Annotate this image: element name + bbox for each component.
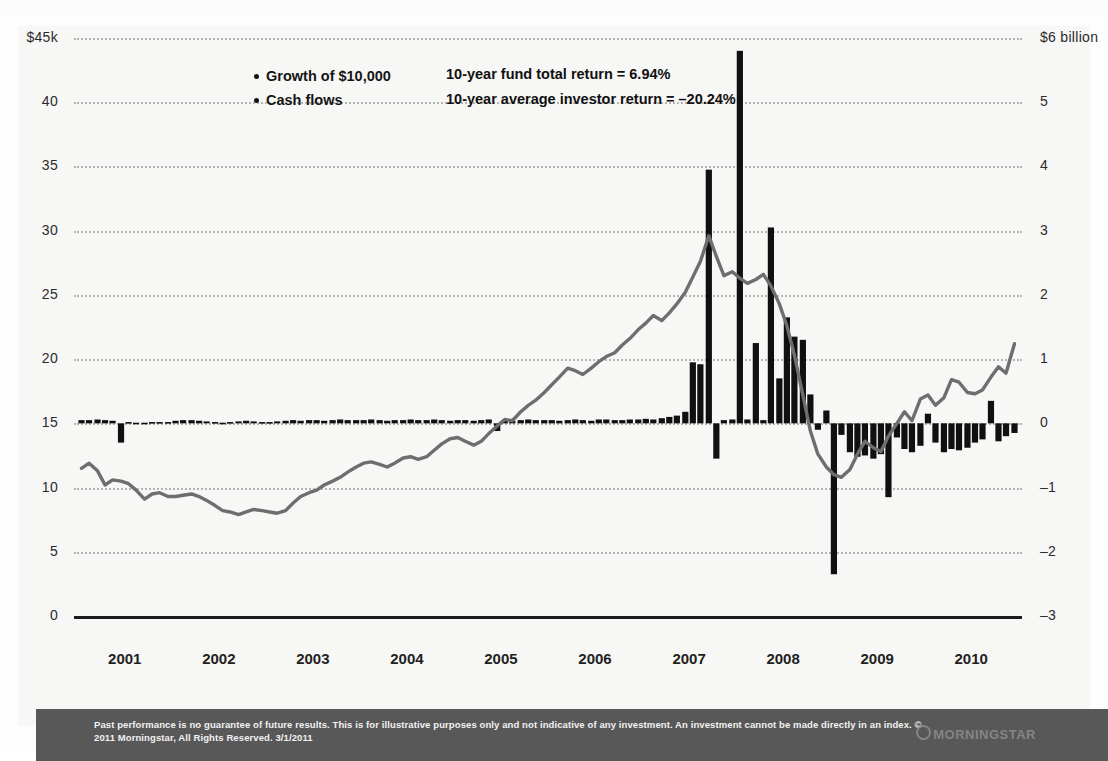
cash-flow-bar [188,420,194,423]
cash-flow-bar [533,420,539,423]
cash-flow-bar [431,419,437,423]
legend-item-cashflows: Cash flows [254,92,391,108]
x-axis-tick: 2007 [672,650,705,667]
cash-flow-bar [518,420,524,423]
y-axis-left-tick: 5 [50,543,58,559]
legend-label-cashflows: Cash flows [266,92,343,108]
cash-flow-bar [172,421,178,424]
cash-flow-bar [259,422,265,424]
cash-flow-bar [86,420,92,423]
cash-flow-bar [744,419,750,423]
x-axis-tick: 2006 [578,650,611,667]
cash-flow-bar [941,423,947,452]
cash-flow-bar [337,419,343,423]
cash-flow-bar [180,420,186,423]
disclaimer-text: Past performance is no guarantee of futu… [94,718,924,744]
cash-flow-bar [979,423,985,439]
cash-flow-bar [243,421,249,424]
cash-flow-bar [713,423,719,458]
cash-flow-bar [956,423,962,450]
cash-flow-bar [219,423,225,425]
cash-flow-bar [565,420,571,423]
y-axis-left-tick: 15 [42,414,58,430]
legend-label-growth: Growth of $10,000 [266,68,391,84]
cash-flow-bar [815,423,821,429]
x-axis-tick: 2001 [108,650,141,667]
cash-flow-bar [729,419,735,423]
cash-flow-bar [917,423,923,445]
cash-flow-bar [368,419,374,423]
cash-flow-bar [988,401,994,423]
cash-flow-bar [768,227,774,423]
cash-flow-bar [690,362,696,423]
cash-flow-bar [462,420,468,423]
cash-flow-bar [870,423,876,458]
y-axis-left-tick: 25 [42,286,58,302]
plot-area: $45k4035302520151050$6 billion543210–1–2… [74,38,1022,616]
cash-flow-bar [925,414,931,424]
x-axis-tick: 2004 [390,650,423,667]
y-axis-right-tick: –3 [1040,607,1056,623]
bullet-icon [254,98,259,103]
y-axis-left-tick: 10 [42,479,58,495]
cash-flow-bar [314,420,320,423]
cash-flow-bar [862,423,868,455]
cash-flow-bar [486,419,492,423]
y-axis-right-tick: 3 [1040,222,1048,238]
scan-artifact-strip [0,0,1108,10]
cash-flow-bar [290,420,296,423]
cash-flow-bar [471,421,477,424]
cash-flow-bar [972,423,978,442]
y-axis-right-tick: 1 [1040,350,1048,366]
cash-flow-bar [118,423,124,442]
cash-flow-bar [580,420,586,423]
y-axis-left-tick: $45k [26,29,58,45]
cash-flow-bar [674,416,680,424]
bullet-icon [254,74,259,79]
cash-flow-bar [831,423,837,574]
y-axis-right-tick: –1 [1040,479,1056,495]
cash-flow-bar [204,421,210,423]
cash-flow-bar [1011,423,1017,433]
cash-flow-bar [650,419,656,423]
cash-flow-bar [612,420,618,423]
cash-flow-bar [321,421,327,424]
x-axis-line [74,616,1022,619]
cash-flow-bar [439,420,445,423]
cash-flow-bar [1003,423,1009,436]
cash-flow-bar [251,421,257,423]
cash-flow-bar [455,420,461,423]
chart-series [74,38,1022,616]
footer-banner: Past performance is no guarantee of futu… [36,709,1108,761]
cash-flow-bar [478,420,484,423]
cash-flow-bar [149,422,155,424]
cash-flow-bar [619,420,625,423]
y-axis-right-tick: –2 [1040,543,1056,559]
stat-fund-return: 10-year fund total return = 6.94% [446,66,736,82]
cash-flow-bar [196,421,202,424]
x-axis-tick: 2005 [484,650,517,667]
legend-item-growth: Growth of $10,000 [254,68,391,84]
cash-flow-bar [283,421,289,424]
cash-flow-bar [909,423,915,452]
cash-flow-bar [659,418,665,423]
cash-flow-bar [541,420,547,423]
cash-flow-bar [78,420,84,423]
cash-flow-bar [235,421,241,423]
cash-flow-bar [549,420,555,423]
y-axis-right-tick: 2 [1040,286,1048,302]
plot-inner: $45k4035302520151050$6 billion543210–1–2… [74,38,1022,616]
cash-flow-bar [525,419,531,423]
cash-flow-bar [353,420,359,423]
cash-flow-bar [156,422,162,424]
cash-flow-bar [603,419,609,423]
cash-flow-bar [133,423,139,425]
y-axis-left-tick: 35 [42,157,58,173]
cash-flow-bar [697,364,703,423]
cash-flow-bar [948,423,954,449]
stat-investor-return: 10-year average investor return = –20.24… [446,91,736,107]
cash-flow-bar [760,420,766,423]
morningstar-wordmark: MORNINGSTAR [933,727,1036,742]
cash-flow-bar [408,419,414,423]
